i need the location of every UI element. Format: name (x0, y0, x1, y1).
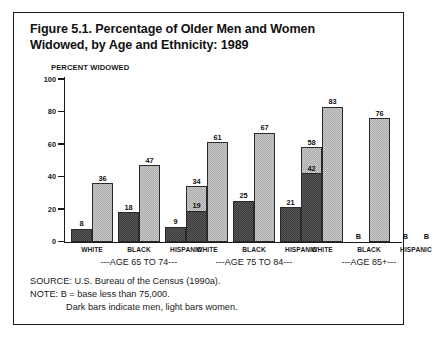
y-axis-tick (58, 78, 65, 79)
y-axis-tick (58, 143, 65, 144)
y-axis-tick-label: 0 (26, 237, 56, 246)
bar-age-85+-white-women (322, 107, 343, 242)
bar-value-label: 83 (318, 97, 348, 106)
y-axis-tick (58, 241, 65, 242)
bar-value-label: 67 (250, 123, 280, 132)
bar-age-65-to-74-white-women (92, 183, 113, 242)
y-axis-tick-label: 100 (26, 75, 56, 84)
y-axis-tick-label: 80 (26, 107, 56, 116)
footer-note: NOTE: B = base less than 75,000. (30, 288, 390, 301)
bar-age-65-to-74-hispanic-men (165, 227, 186, 242)
figure-footer: SOURCE: U.S. Bureau of the Census (1990a… (30, 275, 390, 314)
footer-source: SOURCE: U.S. Bureau of the Census (1990a… (30, 275, 390, 288)
y-axis-tick-label: 60 (26, 140, 56, 149)
bar-value-label: 47 (135, 156, 165, 165)
bar-age-75-to-84-black-women (254, 133, 275, 242)
bar-age-85+-white-men (301, 173, 322, 241)
y-axis-line (64, 77, 65, 243)
x-axis-label-hispanic: HISPANIC (384, 246, 436, 253)
y-axis-tick (58, 111, 65, 112)
bar-value-label: 61 (203, 133, 233, 142)
bar-age-65-to-74-black-women (139, 165, 160, 241)
footer-note-legend: Dark bars indicate men, light bars women… (30, 301, 390, 314)
y-axis-tick (58, 208, 65, 209)
age-group-label: ---AGE 85+--- (299, 257, 436, 267)
bar-age-75-to-84-hispanic-men (280, 207, 301, 241)
bar-value-label: 36 (88, 174, 118, 183)
bar-value-label: 76 (365, 109, 395, 118)
bar-age-65-to-74-black-men (118, 212, 139, 241)
y-axis-tick-label: 40 (26, 172, 56, 181)
bar-age-75-to-84-black-men (233, 201, 254, 242)
bar-age-85+-black-women (369, 118, 390, 242)
bar-value-label: B (412, 232, 436, 241)
bar-age-65-to-74-white-men (71, 229, 92, 242)
bar-age-75-to-84-white-women (207, 142, 228, 241)
y-axis-tick (58, 176, 65, 177)
figure-frame: Figure 5.1. Percentage of Older Men and … (13, 12, 404, 325)
y-axis-tick-label: 20 (26, 205, 56, 214)
bar-age-75-to-84-white-men (186, 211, 207, 242)
x-axis-line (64, 242, 402, 243)
